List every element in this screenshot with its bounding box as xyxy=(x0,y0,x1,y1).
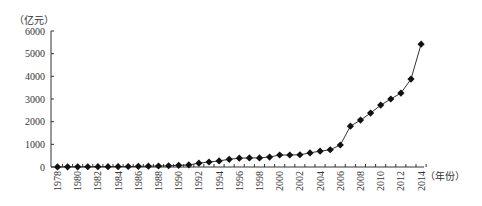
diamond-marker-icon xyxy=(266,153,273,160)
diamond-marker-icon xyxy=(216,157,223,164)
data-markers xyxy=(54,41,425,171)
diamond-marker-icon xyxy=(175,162,182,169)
diamond-marker-icon xyxy=(104,163,111,170)
diamond-marker-icon xyxy=(407,75,414,82)
diamond-marker-icon xyxy=(115,163,122,170)
x-tick-label: 1984 xyxy=(113,171,124,191)
diamond-marker-icon xyxy=(327,146,334,153)
x-tick-label: 2004 xyxy=(315,171,326,191)
y-tick-label: 1000 xyxy=(25,139,45,150)
y-axis: 0100020003000400050006000 xyxy=(25,26,54,173)
x-tick-label: 2006 xyxy=(335,171,346,191)
diamond-marker-icon xyxy=(94,163,101,170)
diamond-marker-icon xyxy=(337,141,344,148)
diamond-marker-icon xyxy=(296,151,303,158)
diamond-marker-icon xyxy=(256,154,263,161)
diamond-marker-icon xyxy=(64,163,71,170)
diamond-marker-icon xyxy=(236,155,243,162)
diamond-marker-icon xyxy=(418,41,425,48)
x-tick-label: 1998 xyxy=(254,171,265,191)
diamond-marker-icon xyxy=(226,156,233,163)
y-tick-label: 5000 xyxy=(25,48,45,59)
diamond-marker-icon xyxy=(246,154,253,161)
diamond-marker-icon xyxy=(357,116,364,123)
diamond-marker-icon xyxy=(306,149,313,156)
diamond-marker-icon xyxy=(347,123,354,130)
diamond-marker-icon xyxy=(205,158,212,165)
diamond-marker-icon xyxy=(135,163,142,170)
x-tick-label: 2010 xyxy=(375,171,386,191)
x-tick-label: 1978 xyxy=(52,171,63,191)
diamond-marker-icon xyxy=(387,95,394,102)
x-tick-label: 1994 xyxy=(214,171,225,191)
x-tick-label: 2012 xyxy=(395,171,406,191)
diamond-marker-icon xyxy=(84,163,91,170)
x-tick-label: 1996 xyxy=(234,171,245,191)
diamond-marker-icon xyxy=(276,151,283,158)
line-chart: （亿元） 0100020003000400050006000 197819801… xyxy=(0,0,482,206)
x-tick-label: 1986 xyxy=(133,171,144,191)
x-tick-label: 2002 xyxy=(294,171,305,191)
diamond-marker-icon xyxy=(74,163,81,170)
y-tick-label: 2000 xyxy=(25,116,45,127)
x-tick-label: 2000 xyxy=(274,171,285,191)
y-axis-unit-label: （亿元） xyxy=(14,14,54,26)
diamond-marker-icon xyxy=(165,162,172,169)
series-line xyxy=(58,44,422,167)
y-tick-label: 4000 xyxy=(25,71,45,82)
x-tick-label: 1992 xyxy=(193,171,204,191)
y-tick-label: 6000 xyxy=(25,26,45,37)
x-tick-label: 2008 xyxy=(355,171,366,191)
y-tick-label: 0 xyxy=(40,162,45,173)
x-tick-label: 1980 xyxy=(72,171,83,191)
x-tick-label: 1990 xyxy=(173,171,184,191)
x-tick-label: 1988 xyxy=(153,171,164,191)
diamond-marker-icon xyxy=(195,160,202,167)
diamond-marker-icon xyxy=(317,148,324,155)
y-tick-label: 3000 xyxy=(25,94,45,105)
diamond-marker-icon xyxy=(145,163,152,170)
diamond-marker-icon xyxy=(155,162,162,169)
diamond-marker-icon xyxy=(125,163,132,170)
diamond-marker-icon xyxy=(397,90,404,97)
x-tick-label: 1982 xyxy=(92,171,103,191)
diamond-marker-icon xyxy=(286,151,293,158)
diamond-marker-icon xyxy=(54,163,61,170)
x-axis-unit-label: （年份） xyxy=(425,170,465,182)
